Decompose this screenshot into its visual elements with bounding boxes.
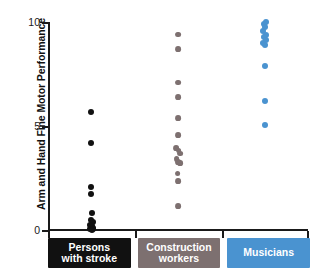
y-tick-label-10: 10: [18, 16, 40, 28]
group-label-stroke: Persons with stroke: [48, 238, 131, 268]
group-label-construction-line2: workers: [146, 253, 211, 265]
data-point: [88, 184, 94, 190]
data-point: [175, 46, 181, 52]
data-point: [88, 191, 94, 197]
data-point: [262, 63, 268, 69]
x-tick-mid2: [222, 231, 224, 238]
group-legend-row: Persons with stroke Construction workers…: [48, 238, 310, 268]
data-point: [175, 171, 181, 177]
x-tick-right: [307, 231, 309, 238]
y-tick-label-5: 5: [18, 120, 40, 132]
data-point: [88, 109, 94, 115]
group-label-stroke-line2: with stroke: [62, 253, 117, 265]
data-point: [88, 140, 94, 146]
y-axis-title: Arm and Hand Fine Motor Performance: [35, 9, 47, 219]
data-point: [175, 115, 181, 121]
data-point: [262, 42, 268, 48]
group-label-musicians: Musicians: [227, 238, 310, 268]
data-point: [89, 210, 95, 216]
data-point: [175, 32, 181, 38]
x-tick-left: [48, 231, 50, 238]
plot-area: [48, 22, 308, 231]
data-point: [175, 94, 181, 100]
data-point: [262, 122, 268, 128]
group-label-construction: Construction workers: [138, 238, 221, 268]
figure-caption: [0, 270, 317, 276]
figure: Arm and Hand Fine Motor Performance 10 5…: [0, 0, 317, 276]
group-label-musicians-line1: Musicians: [243, 247, 294, 259]
x-tick-mid1: [135, 231, 137, 238]
data-point: [262, 98, 268, 104]
data-point: [175, 80, 181, 86]
data-point: [175, 203, 181, 209]
data-point: [175, 132, 181, 138]
data-point: [175, 178, 181, 184]
data-point: [177, 160, 183, 166]
y-tick-label-0: 0: [18, 224, 40, 236]
data-point: [89, 227, 95, 233]
